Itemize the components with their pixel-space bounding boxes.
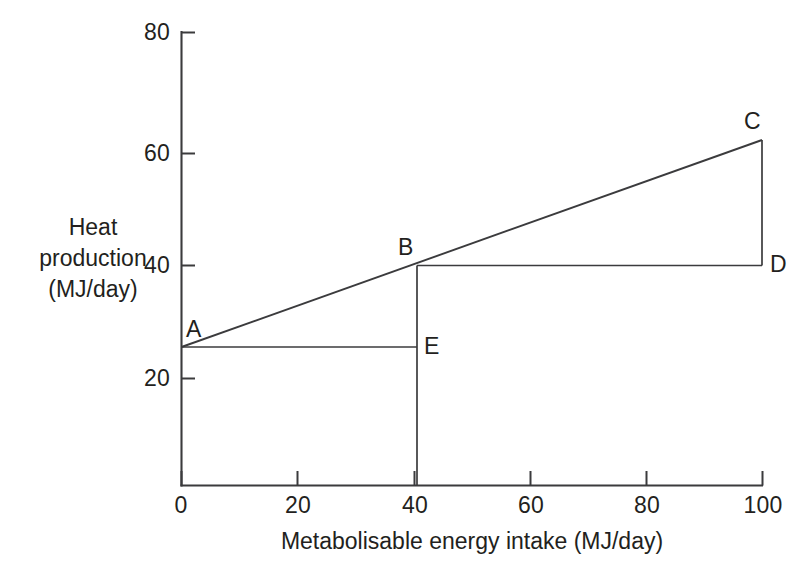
point-label-a: A (186, 316, 201, 343)
y-tick-label-80: 80 (110, 19, 170, 46)
x-tick-label-60: 60 (518, 492, 544, 519)
x-tick-label-20: 20 (285, 492, 311, 519)
y-tick-label-60: 60 (110, 140, 170, 167)
point-label-e: E (424, 333, 439, 360)
x-axis-title: Metabolisable energy intake (MJ/day) (181, 528, 763, 555)
x-tick-label-80: 80 (634, 492, 660, 519)
y-axis-title-line1: Heat (69, 214, 118, 240)
point-label-b: B (398, 234, 413, 261)
y-axis-title-line2: production (39, 245, 146, 271)
series-line-a-to-c (182, 140, 763, 347)
y-axis-title: Heatproduction(MJ/day) (18, 212, 168, 305)
x-tick-label-0: 0 (175, 492, 188, 519)
x-tick-label-100: 100 (744, 492, 783, 519)
point-label-d: D (770, 251, 787, 278)
point-label-c: C (744, 108, 761, 135)
y-axis-title-line3: (MJ/day) (48, 276, 137, 302)
y-tick-label-20: 20 (110, 365, 170, 392)
x-tick-label-40: 40 (402, 492, 428, 519)
chart-figure: 80 60 40 20 0 20 40 60 80 100 A B C D E … (0, 0, 812, 577)
